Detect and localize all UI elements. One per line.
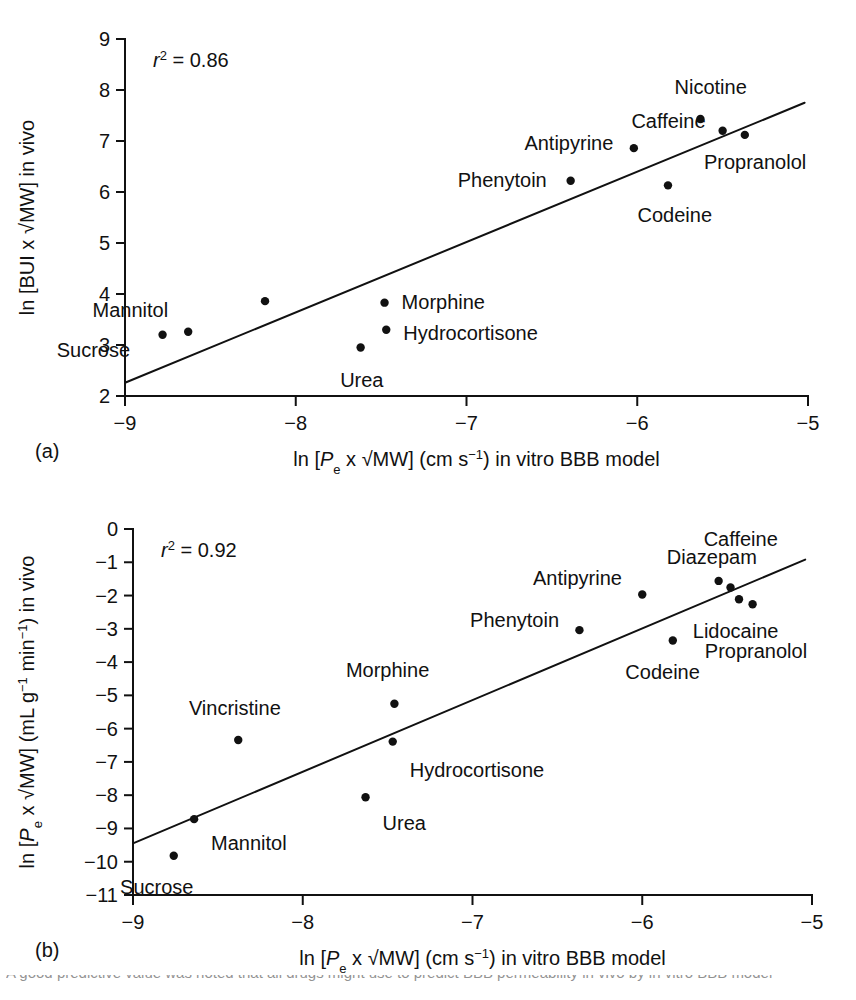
y-tick-label: −3	[95, 618, 118, 640]
y-tick-label: −1	[95, 551, 118, 573]
y-tick-label: 6	[99, 181, 110, 203]
y-tick-label: 5	[99, 232, 110, 254]
data-point-marker	[735, 595, 743, 603]
x-tick-label: −7	[461, 911, 484, 933]
y-tick-label: −7	[95, 751, 118, 773]
data-point-label: Mannitol	[93, 299, 169, 321]
y-tick-label: 0	[107, 518, 118, 540]
panel-letter: (b)	[35, 939, 59, 961]
data-point-label: Vincristine	[189, 697, 281, 719]
data-point-marker	[575, 626, 583, 634]
y-axis-title: ln [Pe x √MW] (mL g−1 min−1) in vivo	[15, 556, 45, 869]
y-tick-label: −10	[84, 851, 118, 873]
panel-b-pe-correlation: −11−10−9−8−7−6−5−4−3−2−10−9−8−7−6−5Sucro…	[0, 490, 856, 970]
y-tick-label: −9	[95, 817, 118, 839]
data-point-label: Sucrose	[57, 339, 130, 361]
x-axis-title: ln [Pe x √MW] (cm s−1) in vitro BBB mode…	[299, 946, 665, 976]
panel-letter: (a)	[35, 440, 59, 462]
x-tick-label: −5	[797, 412, 820, 434]
data-point-marker	[170, 852, 178, 860]
y-axis-title: ln [BUI x √MW] in vivo	[16, 120, 38, 315]
y-tick-label: 7	[99, 130, 110, 152]
data-point-marker	[158, 331, 166, 339]
x-tick-label: −8	[291, 911, 314, 933]
x-tick-label: −8	[284, 412, 307, 434]
data-point-label: Hydrocortisone	[403, 322, 538, 344]
data-point-label: Lidocaine	[693, 620, 779, 642]
y-tick-label: −11	[86, 884, 118, 906]
y-tick-label: −6	[95, 718, 118, 740]
data-point-marker	[638, 590, 646, 598]
x-tick-label: −6	[631, 911, 654, 933]
data-point-label: Propranolol	[704, 151, 806, 173]
data-point-label: Propranolol	[705, 640, 807, 662]
clipped-caption-text: A good predictive value was noted that a…	[0, 975, 856, 982]
y-tick-label: −8	[95, 784, 118, 806]
r-squared-annotation: r2 = 0.86	[153, 48, 229, 72]
y-tick-label: 9	[99, 28, 110, 50]
y-tick-label: 2	[99, 385, 110, 407]
data-point-label: Codeine	[638, 204, 713, 226]
data-point-marker	[356, 343, 364, 351]
data-point-marker	[566, 177, 574, 185]
data-point-label: Nicotine	[675, 76, 747, 98]
data-point-marker	[389, 737, 397, 745]
data-point-label: Mannitol	[211, 832, 287, 854]
x-tick-label: −5	[801, 911, 824, 933]
data-point-label: Sucrose	[120, 876, 193, 898]
data-point-marker	[261, 297, 269, 305]
data-point-label: Caffeine	[631, 110, 705, 132]
data-point-label: Antipyrine	[524, 132, 613, 154]
data-point-label: Caffeine	[704, 528, 778, 550]
data-point-marker	[664, 181, 672, 189]
data-point-marker	[718, 127, 726, 135]
data-point-label: Morphine	[402, 291, 485, 313]
data-point-marker	[361, 793, 369, 801]
data-point-label: Antipyrine	[533, 567, 622, 589]
data-point-marker	[234, 736, 242, 744]
x-tick-label: −9	[122, 911, 145, 933]
data-point-marker	[380, 298, 388, 306]
y-tick-label: 8	[99, 79, 110, 101]
data-point-label: Urea	[383, 812, 427, 834]
x-tick-label: −9	[114, 412, 137, 434]
data-point-label: Phenytoin	[470, 609, 559, 631]
scatter-plot-b: −11−10−9−8−7−6−5−4−3−2−10−9−8−7−6−5Sucro…	[0, 490, 856, 970]
data-point-label: Codeine	[625, 661, 700, 683]
data-point-marker	[748, 600, 756, 608]
r-squared-annotation: r2 = 0.92	[161, 538, 237, 562]
clipped-caption-strip: A good predictive value was noted that a…	[0, 975, 856, 1000]
x-tick-label: −6	[626, 412, 649, 434]
data-point-label: Phenytoin	[458, 169, 547, 191]
data-point-marker	[669, 636, 677, 644]
data-point-marker	[190, 815, 198, 823]
data-point-marker	[741, 131, 749, 139]
data-point-marker	[382, 326, 390, 334]
data-point-marker	[390, 699, 398, 707]
data-point-marker	[714, 577, 722, 585]
data-point-label: Urea	[340, 369, 384, 391]
data-point-marker	[630, 144, 638, 152]
data-point-label: Hydrocortisone	[410, 759, 545, 781]
y-tick-label: −5	[95, 684, 118, 706]
y-tick-label: −2	[95, 585, 118, 607]
data-point-label: Morphine	[346, 659, 429, 681]
figure-root: 23456789−9−8−7−6−5SucroseMannitolUreaMor…	[0, 0, 856, 1000]
scatter-plot-a: 23456789−9−8−7−6−5SucroseMannitolUreaMor…	[0, 0, 856, 490]
data-point-marker	[184, 328, 192, 336]
data-point-marker	[726, 583, 734, 591]
y-tick-label: −4	[95, 651, 118, 673]
x-tick-label: −7	[455, 412, 478, 434]
x-axis-title: ln [Pe x √MW] (cm s−1) in vitro BBB mode…	[293, 447, 659, 477]
panel-a-bui-correlation: 23456789−9−8−7−6−5SucroseMannitolUreaMor…	[0, 0, 856, 490]
